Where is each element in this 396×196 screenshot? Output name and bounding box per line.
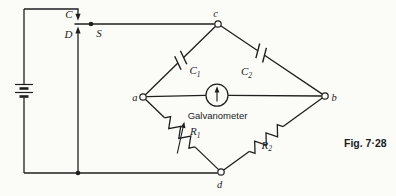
galvanometer-label: Galvanometer xyxy=(188,110,248,121)
capacitor-c2-label: C2 xyxy=(241,65,252,80)
capacitor-c2-branch xyxy=(221,26,323,94)
resistor-r2-branch xyxy=(224,98,323,170)
switch-pivot-dot xyxy=(89,22,94,27)
wire-a-to-r1 xyxy=(145,99,164,118)
resistor-r2-label: R2 xyxy=(261,139,273,154)
capacitor-c2-plate-icon xyxy=(263,48,267,63)
capacitor-c1-label: C1 xyxy=(190,64,201,79)
contact-c-arrow-icon xyxy=(75,14,80,21)
capacitor-c1-plate-icon xyxy=(175,56,181,70)
contact-c-label: C xyxy=(65,8,73,20)
node-c xyxy=(215,21,221,27)
contact-d-label: D xyxy=(64,28,73,40)
wire-d-to-r2 xyxy=(224,151,250,170)
junction-dot xyxy=(76,171,81,176)
bridge-circuit-svg: C D S C1 C2 R1 R2 Galvanometer xyxy=(0,0,396,196)
node-d-label: d xyxy=(217,179,223,190)
capacitor-c1-branch xyxy=(145,26,215,94)
node-d xyxy=(218,169,224,175)
galvanometer xyxy=(146,84,321,106)
node-b-label: b xyxy=(332,92,337,103)
contact-d-arrow-icon xyxy=(75,27,80,34)
wire-galvanometer-to-b xyxy=(228,95,322,96)
wire-r1-to-d xyxy=(195,147,219,170)
node-a-label: a xyxy=(132,92,137,103)
node-a xyxy=(140,94,146,100)
capacitor-c2-plate-icon xyxy=(256,44,260,59)
switch-label: S xyxy=(96,27,102,39)
node-b xyxy=(322,93,328,99)
variable-resistor-arrow-icon xyxy=(181,122,186,128)
wire-c-to-b xyxy=(221,26,323,94)
figure-caption: Fig. 7·28 xyxy=(344,137,387,149)
wire-r2-to-b xyxy=(283,98,322,127)
circuit-figure: C D S C1 C2 R1 R2 Galvanometer xyxy=(0,0,396,196)
battery xyxy=(15,9,33,173)
node-c-label: c xyxy=(213,8,218,19)
capacitor-c1-plate-icon xyxy=(180,51,186,65)
wire-a-to-galvanometer xyxy=(146,95,206,96)
wire-c-to-a xyxy=(145,26,215,94)
